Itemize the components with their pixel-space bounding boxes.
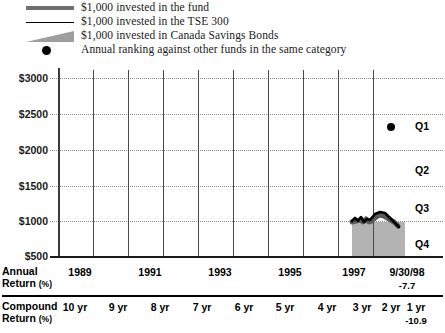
quartile-label-q2: Q2 <box>415 164 429 176</box>
annual-cell-93098-value: -7.7 <box>376 280 438 291</box>
returns-table: Annual Return (%) 1989 1991 1993 1995 19… <box>0 262 445 333</box>
legend-label-fund: $1,000 invested in the fund <box>81 1 209 13</box>
annual-ranking-dot <box>387 123 395 131</box>
legend-item-tse300: $1,000 invested in the TSE 300 <box>0 16 445 29</box>
annual-cell-1997: 1997 <box>333 266 375 278</box>
annual-return-label-unit: (%) <box>39 279 52 289</box>
annual-return-label-line2: Return <box>2 277 36 289</box>
tse-line-icon <box>26 16 74 29</box>
annual-cell-1989: 1989 <box>55 266 105 278</box>
compound-cell-7yr: 7 yr <box>182 301 222 313</box>
compound-return-row-label: Compound Return (%) <box>2 301 57 325</box>
annual-return-row-label: Annual Return (%) <box>2 266 52 290</box>
compound-cell-1yr-value: -10.9 <box>395 315 437 326</box>
legend-label-csb: $1,000 invested in Canada Savings Bonds <box>81 29 278 41</box>
legend-item-fund: $1,000 invested in the fund <box>0 2 445 15</box>
plot-area <box>58 70 410 256</box>
quartile-label-q4: Q4 <box>415 238 429 250</box>
legend-item-csb: $1,000 invested in Canada Savings Bonds <box>0 30 445 43</box>
y-tick-2000: $2000 <box>0 144 48 156</box>
series-overlay <box>58 70 410 256</box>
compound-cell-1yr: 1 yr <box>395 301 437 313</box>
y-axis-line <box>58 68 60 256</box>
legend-item-ranking: Annual ranking against other funds in th… <box>0 44 445 57</box>
quartile-label-q1: Q1 <box>415 120 429 132</box>
compound-return-label-line2: Return <box>2 312 36 324</box>
y-tick-2500: $2500 <box>0 108 48 120</box>
compound-cell-6yr: 6 yr <box>224 301 264 313</box>
compound-return-label-line1: Compound <box>2 300 57 312</box>
legend-label-ranking: Annual ranking against other funds in th… <box>81 43 346 55</box>
chart-legend: $1,000 invested in the fund $1,000 inves… <box>0 2 445 60</box>
x-axis-line <box>50 256 443 258</box>
annual-cell-93098: 9/30/98 <box>376 266 438 278</box>
annual-cell-1991: 1991 <box>125 266 175 278</box>
fund-bar-icon <box>26 2 74 15</box>
annual-return-label-line1: Annual <box>2 265 38 277</box>
y-tick-1500: $1500 <box>0 180 48 192</box>
compound-cell-4yr: 4 yr <box>307 301 347 313</box>
annual-cell-1993: 1993 <box>195 266 245 278</box>
y-tick-3000: $3000 <box>0 72 48 84</box>
compound-cell-10yr: 10 yr <box>55 301 95 313</box>
y-tick-1000: $1000 <box>0 215 48 227</box>
table-divider <box>2 295 443 297</box>
growth-chart: $3000 $2500 $2000 $1500 $1000 $500 Q1 Q2… <box>0 60 445 265</box>
compound-cell-9yr: 9 yr <box>98 301 138 313</box>
quartile-label-q3: Q3 <box>415 202 429 214</box>
csb-triangle-icon <box>26 30 74 43</box>
compound-cell-8yr: 8 yr <box>140 301 180 313</box>
y-tick-500: $500 <box>0 250 48 262</box>
compound-cell-5yr: 5 yr <box>265 301 305 313</box>
ranking-dot-icon <box>26 44 74 57</box>
compound-return-label-unit: (%) <box>39 314 52 324</box>
annual-cell-1995: 1995 <box>265 266 315 278</box>
legend-label-tse300: $1,000 invested in the TSE 300 <box>81 15 229 27</box>
